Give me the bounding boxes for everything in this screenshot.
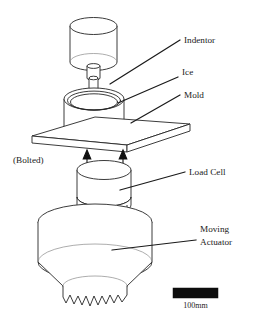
leader-indentor: [110, 40, 180, 84]
indentor-tip-top: [89, 76, 98, 80]
label-mold: Mold: [184, 90, 204, 100]
moving-actuator-assembly: [38, 204, 152, 306]
label-bolted: (Bolted): [13, 155, 44, 165]
scale-bar-caption: 100mm: [183, 301, 208, 310]
scale-bar: [173, 288, 218, 298]
label-load-cell: Load Cell: [189, 167, 226, 177]
label-moving-actuator-line2: Actuator: [200, 237, 232, 247]
load-cell-top-face: [77, 161, 131, 180]
label-indentor: Indentor: [184, 35, 215, 45]
scale-bar-group: 100mm: [173, 288, 218, 310]
leader-mold: [131, 95, 180, 123]
apparatus-diagram: Indentor Ice Mold (Bolted) Load Cell Mov…: [0, 0, 259, 324]
label-ice: Ice: [182, 67, 193, 77]
base-plate-assembly: [32, 117, 190, 152]
figure-canvas: Indentor Ice Mold (Bolted) Load Cell Mov…: [0, 0, 259, 324]
actuator-shaft-stub: [63, 286, 127, 306]
indentor-shaft-collar-top: [87, 64, 100, 69]
indentor-top-face: [70, 18, 117, 35]
leader-ice: [118, 77, 178, 103]
label-moving-actuator-line1: Moving: [200, 224, 230, 234]
